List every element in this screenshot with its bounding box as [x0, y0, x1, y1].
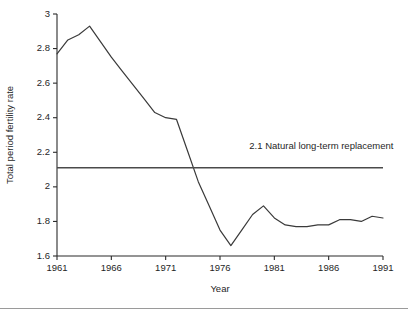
series-line-total-period-fertility-rate — [57, 26, 383, 246]
y-tick-label: 2.6 — [37, 77, 50, 88]
x-axis: 1961196619711976198119861991 — [46, 256, 393, 273]
y-tick-label: 3 — [45, 8, 50, 19]
chart-container: 1.61.822.22.42.62.83 1961196619711976198… — [0, 0, 408, 311]
y-tick-label: 1.8 — [37, 215, 50, 226]
annotation-group: 2.1 Natural long-term replacement — [57, 140, 394, 168]
x-tick-label: 1966 — [101, 262, 122, 273]
y-tick-label: 2 — [45, 180, 50, 191]
y-axis: 1.61.822.22.42.62.83 — [37, 8, 57, 261]
x-tick-label: 1981 — [264, 262, 285, 273]
x-tick-label: 1986 — [318, 262, 339, 273]
data-series-group — [57, 26, 383, 246]
x-axis-title: Year — [210, 283, 229, 294]
y-axis-title: Total period fertility rate — [4, 86, 15, 184]
replacement-level-label: 2.1 Natural long-term replacement — [249, 140, 394, 151]
x-tick-label: 1971 — [155, 262, 176, 273]
footer-divider — [0, 308, 408, 309]
x-tick-label: 1991 — [372, 262, 393, 273]
y-tick-label: 2.2 — [37, 146, 50, 157]
y-tick-label: 1.6 — [37, 250, 50, 261]
fertility-rate-line-chart: 1.61.822.22.42.62.83 1961196619711976198… — [0, 0, 408, 311]
y-tick-label: 2.8 — [37, 42, 50, 53]
x-tick-label: 1976 — [209, 262, 230, 273]
x-tick-label: 1961 — [46, 262, 67, 273]
y-tick-label: 2.4 — [37, 111, 50, 122]
